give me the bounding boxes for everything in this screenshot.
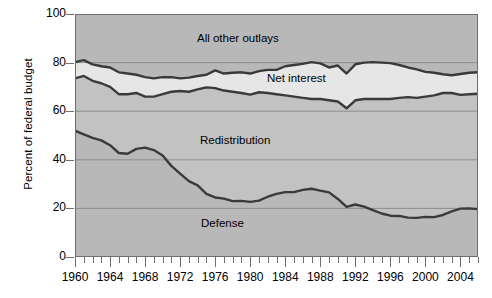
x-tick-mark-1991 (347, 257, 348, 263)
x-tick-mark-1962 (93, 257, 94, 263)
x-tick-mark-2004 (460, 257, 461, 267)
x-tick-mark-1963 (101, 257, 102, 263)
x-tick-mark-1993 (364, 257, 365, 263)
y-tick-label-80: 80 (32, 56, 66, 68)
x-tick-mark-1979 (241, 257, 242, 263)
x-tick-mark-1967 (136, 257, 137, 263)
band-label-all-other-outlays: All other outlays (197, 32, 279, 44)
band-label-net-interest: Net interest (267, 72, 326, 84)
x-tick-mark-1983 (277, 257, 278, 263)
x-tick-mark-1999 (417, 257, 418, 263)
x-tick-mark-1981 (259, 257, 260, 263)
x-tick-mark-1985 (294, 257, 295, 263)
x-tick-mark-1997 (399, 257, 400, 263)
band-label-redistribution: Redistribution (200, 134, 270, 146)
x-tick-mark-1994 (373, 257, 374, 263)
y-tick-label-100: 100 (32, 7, 66, 19)
x-tick-mark-1971 (171, 257, 172, 263)
x-tick-mark-1987 (312, 257, 313, 263)
y-tick-label-0: 0 (32, 250, 66, 262)
y-tick-mark-40 (66, 160, 74, 161)
area-bands (75, 14, 478, 257)
x-tick-mark-2005 (469, 257, 470, 263)
x-tick-mark-1992 (355, 257, 356, 267)
x-tick-mark-2003 (452, 257, 453, 263)
x-tick-mark-1986 (303, 257, 304, 263)
y-tick-label-60: 60 (32, 104, 66, 116)
chart-figure: Percent of federal budget 020406080100 A… (0, 0, 492, 298)
x-tick-mark-2006 (478, 257, 479, 263)
y-tick-mark-80 (66, 63, 74, 64)
band-label-defense: Defense (201, 217, 244, 229)
x-tick-mark-1977 (224, 257, 225, 263)
y-tick-label-20: 20 (32, 201, 66, 213)
y-tick-mark-0 (66, 257, 74, 258)
x-tick-mark-1968 (145, 257, 146, 267)
x-tick-mark-1960 (75, 257, 76, 267)
plot-area: All other outlays Net interest Redistrib… (75, 14, 478, 257)
x-tick-mark-1978 (233, 257, 234, 263)
x-tick-mark-1965 (119, 257, 120, 263)
x-tick-mark-1961 (84, 257, 85, 263)
x-tick-label-2004: 2004 (437, 271, 483, 283)
y-tick-mark-60 (66, 111, 74, 112)
x-tick-mark-1970 (163, 257, 164, 263)
x-tick-mark-1995 (382, 257, 383, 263)
y-tick-mark-100 (66, 14, 74, 15)
x-tick-mark-1989 (329, 257, 330, 263)
x-tick-mark-2001 (434, 257, 435, 263)
x-tick-mark-1974 (198, 257, 199, 263)
x-tick-mark-1975 (206, 257, 207, 263)
x-tick-mark-2000 (425, 257, 426, 267)
x-tick-mark-1976 (215, 257, 216, 267)
x-tick-mark-1969 (154, 257, 155, 263)
y-tick-mark-20 (66, 208, 74, 209)
x-tick-mark-1984 (285, 257, 286, 267)
x-tick-mark-2002 (443, 257, 444, 263)
x-tick-mark-1982 (268, 257, 269, 263)
stacked-area-chart (75, 14, 478, 257)
x-tick-mark-1990 (338, 257, 339, 263)
x-tick-mark-1972 (180, 257, 181, 267)
x-tick-mark-1996 (390, 257, 391, 267)
x-tick-mark-1966 (128, 257, 129, 263)
y-axis-tick-labels: 020406080100 (32, 0, 66, 298)
x-tick-mark-1980 (250, 257, 251, 267)
x-tick-mark-1998 (408, 257, 409, 263)
x-tick-mark-1973 (189, 257, 190, 263)
y-tick-label-40: 40 (32, 153, 66, 165)
x-tick-mark-1988 (320, 257, 321, 267)
x-tick-mark-1964 (110, 257, 111, 267)
